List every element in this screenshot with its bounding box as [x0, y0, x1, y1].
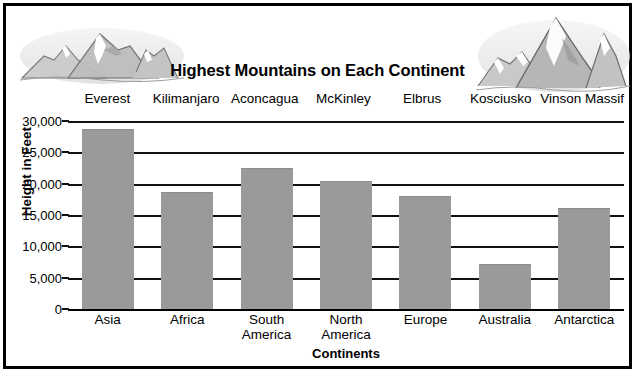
y-axis-tick-label: 30,000 — [22, 114, 62, 129]
bar-north-america[interactable] — [320, 181, 372, 309]
y-axis-tick-label: 0 — [55, 302, 62, 317]
y-axis-tick-label: 10,000 — [22, 239, 62, 254]
y-axis-tick-label: 20,000 — [22, 176, 62, 191]
mountain-name-label: Kilimanjaro — [147, 91, 226, 111]
mountain-name-row: Everest Kilimanjaro Aconcagua McKinley E… — [68, 91, 624, 111]
axis-baseline — [68, 309, 624, 311]
bar-slot — [386, 121, 465, 309]
chart-title: Highest Mountains on Each Continent — [6, 61, 629, 80]
mountain-name-label: Kosciusko — [462, 91, 541, 111]
mountain-name-label: McKinley — [304, 91, 383, 111]
y-axis-tick-label: 15,000 — [22, 208, 62, 223]
y-axis-tick-label: 5,000 — [29, 270, 62, 285]
x-axis-title: Continents — [68, 346, 624, 361]
bar-slot — [147, 121, 226, 309]
mountain-range-sketch-right-icon — [476, 8, 631, 96]
mountain-name-label: Elbrus — [383, 91, 462, 111]
bar-europe[interactable] — [399, 196, 451, 309]
bar-slot — [465, 121, 544, 309]
bar-africa[interactable] — [161, 192, 213, 309]
bar-series — [68, 121, 624, 309]
bar-antarctica[interactable] — [558, 208, 610, 309]
bar-slot — [306, 121, 385, 309]
plot-area — [68, 121, 624, 309]
mountain-name-label: Vinson Massif — [540, 91, 624, 111]
y-axis-tick-label: 25,000 — [22, 145, 62, 160]
bar-slot — [227, 121, 306, 309]
bar-south-america[interactable] — [241, 168, 293, 309]
bar-slot — [68, 121, 147, 309]
bar-slot — [545, 121, 624, 309]
y-axis-tick-labels: 30,00025,00020,00015,00010,0005,0000 — [6, 121, 64, 309]
bar-asia[interactable] — [82, 129, 134, 309]
chart-frame: Highest Mountains on Each Continent Ever… — [3, 3, 632, 369]
bar-australia[interactable] — [479, 264, 531, 309]
mountain-name-label: Everest — [68, 91, 147, 111]
mountain-name-label: Aconcagua — [225, 91, 304, 111]
